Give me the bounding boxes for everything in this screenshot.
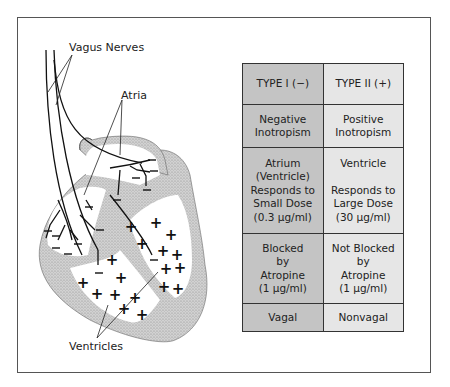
svg-text:+: + bbox=[150, 214, 163, 232]
svg-text:+: + bbox=[158, 278, 171, 296]
svg-text:+: + bbox=[77, 274, 90, 292]
svg-text:+: + bbox=[160, 260, 173, 278]
cell-type-ii-vagal: Nonvagal bbox=[323, 304, 404, 332]
label-atria: Atria bbox=[121, 89, 147, 102]
table-row-vagal: Vagal Nonvagal bbox=[243, 304, 404, 332]
svg-text:+: + bbox=[172, 280, 185, 298]
label-vagus-nerves: Vagus Nerves bbox=[69, 41, 144, 54]
table-row-atropine: Blocked by Atropine (1 µg/ml) Not Blocke… bbox=[243, 234, 404, 304]
header-type-i: TYPE I (−) bbox=[243, 64, 324, 105]
cell-type-ii-atropine: Not Blocked by Atropine (1 µg/ml) bbox=[323, 234, 404, 304]
svg-text:+: + bbox=[115, 269, 128, 287]
table-row-inotropism: Negative Inotropism Positive Inotropism bbox=[243, 105, 404, 148]
cell-type-i-vagal: Vagal bbox=[243, 304, 324, 332]
svg-text:+: + bbox=[106, 251, 119, 269]
header-type-ii: TYPE II (+) bbox=[323, 64, 404, 105]
cell-type-ii-inotropism: Positive Inotropism bbox=[323, 105, 404, 148]
cell-type-i-atropine: Blocked by Atropine (1 µg/ml) bbox=[243, 234, 324, 304]
svg-text:+: + bbox=[174, 259, 187, 277]
svg-text:+: + bbox=[136, 235, 149, 253]
svg-text:+: + bbox=[129, 289, 142, 307]
cell-type-ii-dose: Ventricle Responds to Large Dose (30 µg/… bbox=[323, 148, 404, 234]
receptor-comparison-table: TYPE I (−) TYPE II (+) Negative Inotropi… bbox=[242, 63, 404, 332]
svg-text:+: + bbox=[157, 242, 170, 260]
svg-text:+: + bbox=[136, 306, 149, 324]
svg-text:+: + bbox=[91, 285, 104, 303]
label-ventricles: Ventricles bbox=[69, 340, 123, 353]
svg-text:+: + bbox=[125, 218, 138, 236]
table-row-dose-response: Atrium (Ventricle) Responds to Small Dos… bbox=[243, 148, 404, 234]
cell-type-i-dose: Atrium (Ventricle) Responds to Small Dos… bbox=[243, 148, 324, 234]
svg-text:+: + bbox=[118, 300, 131, 318]
cell-type-i-inotropism: Negative Inotropism bbox=[243, 105, 324, 148]
table-header-row: TYPE I (−) TYPE II (+) bbox=[243, 64, 404, 105]
